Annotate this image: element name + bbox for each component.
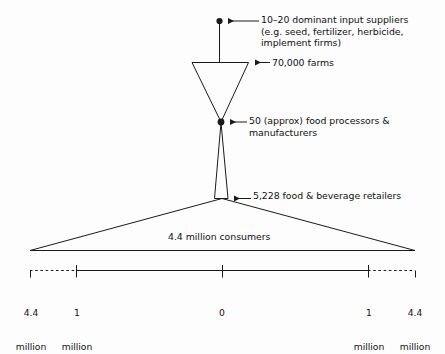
axis-label-center-0-line1: 0 <box>197 307 247 318</box>
axis-label-center-0: 0 <box>197 284 247 341</box>
node-dot-suppliers <box>216 18 222 24</box>
axis-label-right-1-line2: million <box>344 341 394 352</box>
axis-label-left-1: 1 million <box>52 284 102 354</box>
axis-label-left-44-line2: million <box>6 341 56 352</box>
axis-label-right-1: 1 million <box>344 284 394 354</box>
axis-label-right-1-line1: 1 <box>344 307 394 318</box>
axis-label-right-44-line1: 4.4 <box>390 307 440 318</box>
axis-label-left-1-line2: million <box>52 341 102 352</box>
node-dot-processors <box>218 119 225 126</box>
label-consumers: 4.4 million consumers <box>168 231 270 243</box>
farms-triangle <box>192 63 249 123</box>
axis-label-left-44: 4.4 million <box>6 284 56 354</box>
label-input-suppliers: 10–20 dominant input suppliers (e.g. see… <box>261 14 408 49</box>
label-retailers: 5,228 food & beverage retailers <box>253 190 401 202</box>
axis-label-left-44-line1: 4.4 <box>6 307 56 318</box>
axis-label-left-1-line1: 1 <box>52 307 102 318</box>
label-food-processors: 50 (approx) food processors & manufactur… <box>249 115 390 138</box>
axis-label-right-44: 4.4 million <box>390 284 440 354</box>
processors-to-retailers-wedge <box>215 123 229 199</box>
label-farms: 70,000 farms <box>272 57 334 69</box>
axis-label-right-44-line2: million <box>390 341 440 352</box>
consumers-triangle <box>30 199 415 251</box>
